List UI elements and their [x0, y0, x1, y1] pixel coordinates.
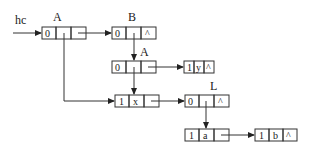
null-pointer: ^ — [206, 62, 211, 73]
atom-value: x — [133, 96, 138, 107]
atom-value: a — [203, 130, 208, 141]
node-label-B: B — [128, 10, 136, 24]
node-tag: 1 — [259, 130, 264, 141]
edge-A1-to-X — [64, 33, 114, 101]
node-label-L: L — [210, 79, 217, 93]
null-pointer: ^ — [286, 130, 291, 141]
atom-value: b — [273, 130, 278, 141]
node-label-A1: A — [53, 10, 62, 24]
atom-value: y — [196, 62, 201, 73]
atom-node-b: 1 b ^ — [255, 129, 297, 141]
node-tag: 0 — [115, 28, 120, 39]
node-label-A2: A — [140, 45, 149, 59]
node-tag: 0 — [45, 28, 50, 39]
node-tag: 0 — [188, 96, 193, 107]
head-pointer-label: hc — [15, 13, 26, 27]
diagram-canvas: hc A 0 B 0 ^ A 0 1 y ^ — [0, 0, 312, 153]
node-tag: 1 — [187, 62, 192, 73]
generalized-list-diagram: hc A 0 B 0 ^ A 0 1 y ^ — [0, 0, 312, 153]
node-tag: 1 — [189, 130, 194, 141]
null-pointer: ^ — [145, 28, 150, 39]
atom-node-y: 1 y ^ — [184, 61, 214, 73]
node-tag: 1 — [119, 96, 124, 107]
node-tag: 0 — [115, 62, 120, 73]
null-pointer: ^ — [218, 96, 223, 107]
list-node-L: L 0 ^ — [185, 79, 229, 107]
